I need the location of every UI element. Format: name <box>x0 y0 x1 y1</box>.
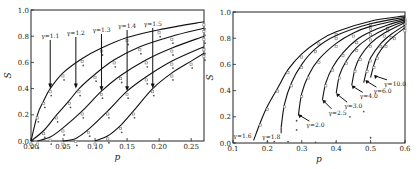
x-axis-label: p <box>316 154 322 164</box>
data-marker <box>81 113 83 115</box>
data-marker <box>307 77 309 79</box>
data-marker <box>342 55 344 57</box>
data-marker <box>314 51 316 53</box>
x-tick-label: 0.2 <box>262 145 273 153</box>
series-curve <box>298 19 405 116</box>
data-marker <box>318 43 320 45</box>
data-marker <box>287 141 289 143</box>
data-marker <box>94 76 96 78</box>
data-marker <box>290 85 292 87</box>
gamma-label: γ=1.4 <box>118 22 136 30</box>
data-marker <box>301 95 303 97</box>
y-tick-label: 1.0 <box>220 9 231 17</box>
data-marker <box>57 121 59 123</box>
data-marker <box>277 90 279 92</box>
data-marker <box>113 62 115 64</box>
data-marker <box>190 63 192 65</box>
data-marker <box>36 117 38 119</box>
data-marker <box>404 30 406 32</box>
y-tick-label: 0.2 <box>18 111 29 119</box>
data-marker <box>363 111 365 113</box>
data-marker <box>152 91 154 93</box>
data-marker <box>356 42 358 44</box>
data-marker <box>266 108 268 110</box>
data-marker <box>203 55 205 57</box>
y-tick-label: 0.8 <box>220 35 231 43</box>
data-marker <box>81 60 83 62</box>
gamma-label: γ=1.1 <box>41 32 59 40</box>
x-tick-label: 0.4 <box>331 145 343 153</box>
gamma-label: γ=3.0 <box>344 102 362 110</box>
data-marker <box>301 56 303 58</box>
data-marker <box>332 69 334 71</box>
data-marker <box>325 85 327 87</box>
data-marker <box>204 59 206 61</box>
data-marker <box>70 106 72 108</box>
y-tick-label: 0.4 <box>18 85 30 93</box>
data-marker <box>366 70 368 72</box>
data-marker <box>55 117 57 119</box>
data-marker <box>171 75 173 77</box>
x-tick-label: 0.5 <box>365 145 376 153</box>
x-tick-label: 0.3 <box>296 145 307 153</box>
data-marker <box>369 34 371 36</box>
data-marker <box>62 75 64 77</box>
y-tick-label: 0.4 <box>220 87 232 95</box>
data-marker <box>82 117 84 119</box>
data-marker <box>43 133 45 135</box>
data-marker <box>354 70 356 72</box>
series-curve <box>63 47 204 141</box>
data-marker <box>318 61 320 63</box>
data-marker <box>296 120 298 122</box>
gamma-label: γ=1.6 <box>233 132 251 140</box>
y-tick-label: 0.0 <box>220 140 231 148</box>
arrowhead-icon <box>74 84 78 89</box>
y-tick-label: 0.0 <box>18 138 29 146</box>
data-marker <box>94 143 96 145</box>
y-tick-label: 1.0 <box>18 7 29 15</box>
data-marker <box>140 53 142 55</box>
gamma-label: γ=10.0 <box>384 80 406 88</box>
data-marker <box>146 66 148 68</box>
data-marker <box>89 135 91 137</box>
data-marker <box>107 138 109 140</box>
data-marker <box>352 35 354 37</box>
data-marker <box>49 91 51 93</box>
data-marker <box>145 79 147 81</box>
data-marker <box>75 140 77 142</box>
data-marker <box>273 141 275 143</box>
x-tick-label: 0.15 <box>119 143 135 151</box>
data-marker <box>134 117 136 119</box>
data-marker <box>203 38 205 40</box>
data-marker <box>50 143 52 145</box>
data-marker <box>301 66 303 68</box>
data-marker <box>100 93 102 95</box>
series-curve <box>31 22 204 141</box>
data-marker <box>380 45 382 47</box>
data-marker <box>95 147 97 149</box>
gamma-label: γ=1.2 <box>67 29 85 37</box>
data-marker <box>370 137 372 139</box>
data-marker <box>153 95 155 97</box>
data-marker <box>68 102 70 104</box>
data-marker <box>107 113 109 115</box>
data-marker <box>335 141 337 143</box>
data-marker <box>287 72 289 74</box>
data-marker <box>203 30 205 32</box>
data-marker <box>335 38 337 40</box>
data-marker <box>267 141 269 143</box>
data-marker <box>63 79 65 81</box>
data-marker <box>204 42 206 44</box>
data-marker <box>191 67 193 69</box>
x-tick-label: 0.6 <box>399 145 411 153</box>
data-marker <box>121 82 123 84</box>
data-marker <box>159 36 161 38</box>
panel-right: 0.10.20.30.40.50.60.00.20.40.60.81.0pSγ=… <box>205 9 411 165</box>
data-marker <box>349 116 351 118</box>
data-marker <box>43 102 45 104</box>
data-marker <box>121 131 123 133</box>
data-marker <box>38 147 40 149</box>
data-marker <box>78 91 80 93</box>
data-marker <box>204 53 206 55</box>
data-marker <box>50 95 52 97</box>
